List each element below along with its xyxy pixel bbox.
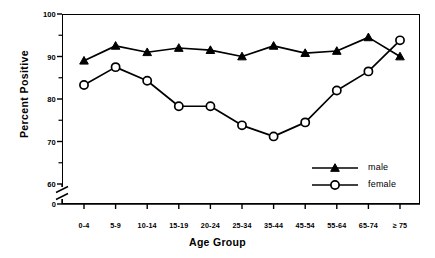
x-tick-label-1: 5-9 (110, 221, 121, 230)
x-tick-label-4: 20-24 (201, 221, 220, 230)
x-axis-title: Age Group (0, 236, 435, 248)
x-axis-tick-labels: 0-45-910-1415-1920-2425-3435-4445-5455-6… (0, 207, 435, 223)
legend-label-female: female (368, 179, 396, 189)
plot-area (62, 14, 420, 204)
x-tick-label-2: 10-14 (138, 221, 157, 230)
x-tick-label-3: 15-19 (169, 221, 188, 230)
y-tick-label-70: 70 (30, 138, 56, 147)
x-tick-label-7: 45-54 (296, 221, 315, 230)
y-tick-label-100: 100 (30, 10, 56, 19)
x-tick-label-5: 25-34 (232, 221, 251, 230)
x-tick-label-0: 0-4 (79, 221, 90, 230)
x-tick-label-6: 35-44 (264, 221, 283, 230)
x-tick-label-9: 65-74 (359, 221, 378, 230)
y-tick-label-80: 80 (30, 95, 56, 104)
legend-label-male: male (368, 162, 388, 172)
y-tick-label-60: 60 (30, 180, 56, 189)
chart-figure: Percent Positive Age Group 100908070600 … (0, 0, 435, 258)
y-tick-label-90: 90 (30, 53, 56, 62)
x-tick-label-8: 55-64 (327, 221, 346, 230)
x-tick-label-10: ≥ 75 (393, 221, 408, 230)
